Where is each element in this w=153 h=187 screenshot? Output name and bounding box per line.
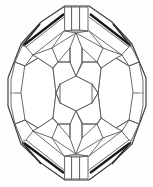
left-octagon-facet [21,58,56,128]
top-keel-facet-left [65,7,72,31]
top-keel-facet-right [80,7,88,31]
right-octagon-facet [98,58,133,128]
gem-line-drawing: Faceted Gem Polyhedron Line Drawing [0,0,153,187]
top-keel-facet-center [72,7,80,30]
bottom-keel-facets [65,156,88,179]
top-keel-facets [65,7,88,31]
bottom-keel-facet-right [80,156,88,179]
gem-figure-root: Faceted Gem Polyhedron Line Drawing [0,0,153,187]
bottom-keel-facet-left [65,156,72,179]
bottom-keel-facet-center [72,157,80,179]
